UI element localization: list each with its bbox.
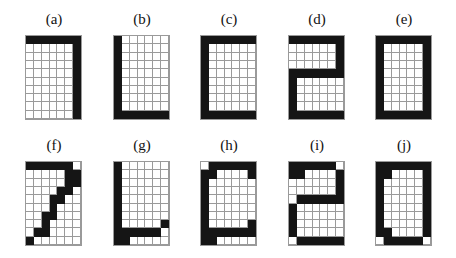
filled-cell	[423, 69, 431, 77]
empty-cell	[50, 94, 58, 102]
empty-cell	[289, 179, 297, 187]
empty-cell	[217, 102, 225, 110]
filled-cell	[336, 69, 344, 77]
empty-cell	[50, 220, 58, 228]
empty-cell	[130, 162, 138, 170]
empty-cell	[248, 204, 256, 212]
empty-cell	[328, 94, 336, 102]
empty-cell	[415, 179, 423, 187]
empty-cell	[26, 86, 34, 94]
filled-cell	[114, 170, 122, 178]
filled-cell	[217, 111, 225, 119]
filled-cell	[336, 53, 344, 61]
empty-cell	[42, 94, 50, 102]
empty-cell	[248, 212, 256, 220]
filled-cell	[289, 78, 297, 86]
empty-cell	[248, 86, 256, 94]
empty-cell	[305, 170, 313, 178]
empty-cell	[305, 78, 313, 86]
empty-cell	[138, 162, 146, 170]
empty-cell	[26, 212, 34, 220]
empty-cell	[209, 78, 217, 86]
empty-cell	[34, 220, 42, 228]
filled-cell	[50, 36, 58, 44]
empty-cell	[392, 212, 400, 220]
empty-cell	[407, 187, 415, 195]
empty-cell	[138, 170, 146, 178]
filled-cell	[423, 220, 431, 228]
filled-cell	[201, 195, 209, 203]
empty-cell	[50, 69, 58, 77]
empty-cell	[217, 187, 225, 195]
empty-cell	[130, 170, 138, 178]
filled-cell	[65, 179, 73, 187]
empty-cell	[26, 61, 34, 69]
filled-cell	[201, 179, 209, 187]
filled-cell	[65, 170, 73, 178]
empty-cell	[320, 204, 328, 212]
empty-cell	[50, 111, 58, 119]
empty-cell	[138, 53, 146, 61]
filled-cell	[26, 237, 34, 245]
empty-cell	[209, 179, 217, 187]
filled-cell	[114, 204, 122, 212]
empty-cell	[42, 204, 50, 212]
filled-cell	[336, 44, 344, 52]
empty-cell	[34, 195, 42, 203]
empty-cell	[65, 86, 73, 94]
empty-cell	[240, 179, 248, 187]
filled-cell	[336, 111, 344, 119]
empty-cell	[26, 94, 34, 102]
empty-cell	[305, 212, 313, 220]
empty-cell	[217, 195, 225, 203]
filled-cell	[232, 228, 240, 236]
empty-cell	[42, 86, 50, 94]
empty-cell	[217, 170, 225, 178]
empty-cell	[42, 111, 50, 119]
empty-cell	[145, 86, 153, 94]
empty-cell	[320, 179, 328, 187]
empty-cell	[336, 212, 344, 220]
empty-cell	[161, 94, 169, 102]
empty-cell	[138, 220, 146, 228]
filled-cell	[423, 187, 431, 195]
filled-cell	[305, 111, 313, 119]
empty-cell	[313, 102, 321, 110]
empty-cell	[225, 102, 233, 110]
empty-cell	[138, 204, 146, 212]
filled-cell	[50, 204, 58, 212]
empty-cell	[415, 61, 423, 69]
filled-cell	[145, 111, 153, 119]
empty-cell	[130, 94, 138, 102]
filled-cell	[114, 195, 122, 203]
filled-cell	[376, 204, 384, 212]
empty-cell	[65, 212, 73, 220]
empty-cell	[392, 195, 400, 203]
filled-cell	[130, 228, 138, 236]
empty-cell	[217, 220, 225, 228]
filled-cell	[289, 170, 297, 178]
filled-cell	[376, 220, 384, 228]
empty-cell	[145, 53, 153, 61]
empty-cell	[407, 220, 415, 228]
filled-cell	[50, 195, 58, 203]
empty-cell	[232, 44, 240, 52]
filled-cell	[400, 237, 408, 245]
empty-cell	[415, 187, 423, 195]
empty-cell	[225, 195, 233, 203]
empty-cell	[328, 86, 336, 94]
empty-cell	[240, 61, 248, 69]
filled-cell	[400, 162, 408, 170]
empty-cell	[225, 212, 233, 220]
empty-cell	[209, 102, 217, 110]
filled-cell	[209, 111, 217, 119]
pixel-grid	[375, 161, 432, 246]
filled-cell	[320, 111, 328, 119]
filled-cell	[248, 36, 256, 44]
filled-cell	[201, 170, 209, 178]
filled-cell	[328, 162, 336, 170]
filled-cell	[201, 61, 209, 69]
empty-cell	[225, 237, 233, 245]
filled-cell	[153, 228, 161, 236]
empty-cell	[65, 102, 73, 110]
